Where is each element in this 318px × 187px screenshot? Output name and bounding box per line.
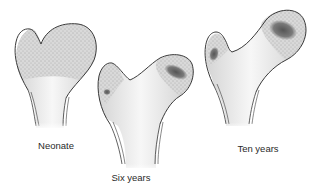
six-years-femur [98,55,193,172]
neonate-femur [15,24,96,130]
label-six-years: Six years [111,172,150,183]
femur-development-illustration [0,0,318,187]
ossification-center-trochanter [104,89,111,95]
label-ten-years: Ten years [237,143,278,154]
label-neonate: Neonate [38,140,74,151]
ten-years-femur [205,10,306,130]
